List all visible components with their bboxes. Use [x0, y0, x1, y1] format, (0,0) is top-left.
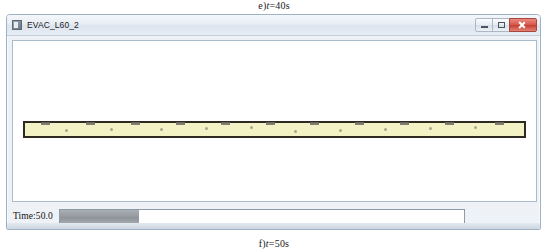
close-button-icon[interactable]: [509, 18, 537, 32]
caption-top-value: =40s: [269, 0, 289, 11]
exit-mark: [221, 122, 230, 125]
exit-mark: [176, 122, 185, 125]
corridor-geometry: [23, 121, 526, 138]
application-icon: [12, 20, 22, 30]
agent-marker: [110, 128, 113, 131]
window-footer: [7, 223, 540, 229]
agent-marker: [205, 127, 208, 130]
minimize-button-icon[interactable]: [475, 18, 493, 32]
exit-mark: [266, 122, 275, 125]
agent-marker: [429, 127, 432, 130]
exit-mark: [310, 122, 319, 125]
agent-marker: [294, 130, 297, 133]
agent-marker: [160, 128, 163, 131]
caption-bottom-value: =50s: [269, 238, 289, 249]
exit-mark: [445, 122, 454, 125]
agent-marker: [65, 129, 68, 132]
caption-bottom-prefix: f): [259, 238, 266, 249]
exit-mark: [131, 122, 140, 125]
exit-mark: [400, 122, 409, 125]
exit-mark: [41, 122, 50, 125]
exit-mark: [86, 122, 95, 125]
figure-caption-bottom: f)t=50s: [0, 238, 548, 249]
window-controls: [475, 17, 537, 32]
agent-marker: [474, 126, 477, 129]
simulation-progress-fill: [60, 210, 139, 223]
agent-marker: [384, 128, 387, 131]
agent-marker: [250, 126, 253, 129]
exit-mark: [495, 122, 504, 125]
agent-marker: [339, 129, 342, 132]
figure-caption-top: e)t=40s: [0, 0, 548, 11]
application-window: EVAC_L60_2 Time:50.0: [6, 14, 541, 230]
simulation-time-label: Time:50.0: [12, 211, 53, 221]
window-title: EVAC_L60_2: [27, 20, 79, 30]
title-bar[interactable]: EVAC_L60_2: [7, 15, 540, 36]
maximize-button-icon[interactable]: [492, 18, 510, 32]
simulation-canvas[interactable]: [12, 40, 537, 202]
simulation-progress-bar[interactable]: [59, 209, 465, 224]
exit-mark: [355, 122, 364, 125]
